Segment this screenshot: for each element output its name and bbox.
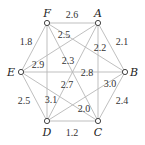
edge-weight-A-B: 2.1 xyxy=(116,36,129,47)
node-C xyxy=(95,118,100,123)
edge-weight-A-C: 2.2 xyxy=(94,42,107,53)
edges-layer xyxy=(21,23,125,121)
node-F xyxy=(44,20,49,25)
edge-weight-E-C: 2.0 xyxy=(78,103,91,114)
edge-weight-E-D: 2.5 xyxy=(18,95,31,106)
edge-weight-F-B: 2.5 xyxy=(58,29,71,40)
node-E xyxy=(18,69,23,74)
edge-weight-F-E: 1.8 xyxy=(20,36,33,47)
edge-weight-A-E: 2.9 xyxy=(32,59,45,70)
edge-weight-F-A: 2.6 xyxy=(66,9,79,20)
node-label-B: B xyxy=(129,66,138,79)
edge-weight-D-C: 1.2 xyxy=(66,127,79,138)
node-B xyxy=(122,69,127,74)
edge-weight-C-B: 2.4 xyxy=(116,95,129,106)
edge-weight-F-C: 2.3 xyxy=(62,55,75,66)
node-D xyxy=(44,118,49,123)
weighted-graph-diagram: 2.62.11.82.51.22.42.52.92.22.32.82.73.13… xyxy=(0,0,145,145)
node-label-C: C xyxy=(94,126,103,139)
edge-weight-E-B: 2.8 xyxy=(81,67,94,78)
edge-weight-D-B: 3.0 xyxy=(104,78,117,89)
node-A xyxy=(95,20,100,25)
edge-weight-F-D: 3.1 xyxy=(45,94,58,105)
node-label-D: D xyxy=(42,126,52,139)
node-label-F: F xyxy=(42,7,51,20)
node-label-E: E xyxy=(6,66,15,79)
edge-weight-A-D: 2.7 xyxy=(61,79,74,90)
node-label-A: A xyxy=(93,7,102,20)
